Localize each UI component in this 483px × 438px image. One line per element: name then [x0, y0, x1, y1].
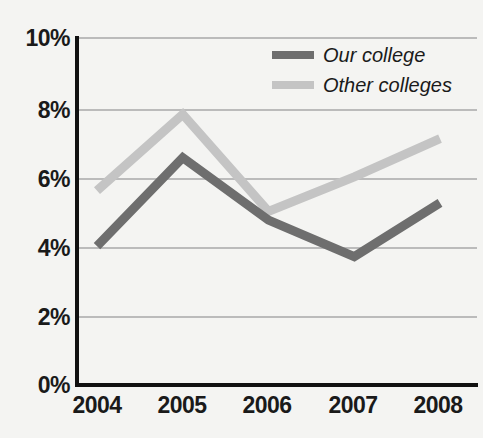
legend: Our college Other colleges: [272, 44, 452, 95]
legend-item-our-college: Our college: [272, 44, 452, 65]
legend-label-other-colleges: Other colleges: [323, 75, 452, 95]
legend-item-other-colleges: Other colleges: [272, 74, 452, 95]
line-chart: 10% 8% 6% 4% 2% 0% 2004 2005 2006 2007 2…: [0, 0, 483, 438]
legend-swatch-other-colleges: [272, 81, 314, 89]
y-tick-label-6pct: 6%: [0, 168, 70, 191]
y-tick-label-10pct: 10%: [0, 27, 70, 50]
y-tick-label-4pct: 4%: [0, 237, 70, 260]
legend-label-our-college: Our college: [323, 45, 425, 65]
y-tick-label-8pct: 8%: [0, 99, 70, 122]
x-tick-label-2007: 2007: [308, 394, 398, 417]
x-tick-label-2005: 2005: [137, 394, 227, 417]
y-tick-label-2pct: 2%: [0, 306, 70, 329]
x-tick-label-2006: 2006: [222, 394, 312, 417]
x-tick-label-2008: 2008: [393, 394, 483, 417]
legend-swatch-our-college: [272, 51, 314, 59]
x-tick-label-2004: 2004: [52, 394, 142, 417]
